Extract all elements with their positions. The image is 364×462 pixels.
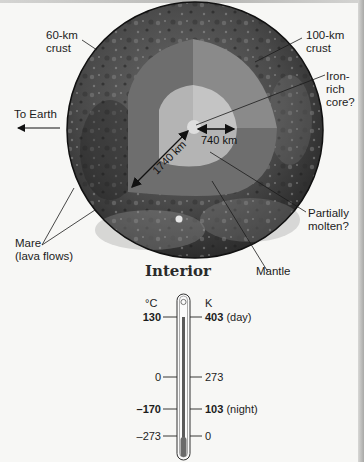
kelvin-403-row: 403 (day) (205, 311, 251, 323)
thermometer-icon (0, 0, 364, 462)
celsius-minus-273: –273 (137, 430, 161, 442)
moon-interior-figure: 1740 km 740 km 60-km crust 100-km crust … (0, 0, 364, 462)
kelvin-273: 273 (205, 371, 223, 383)
celsius-130: 130 (143, 311, 161, 323)
kelvin-0: 0 (205, 430, 211, 442)
kelvin-103-row: 103 (night) (205, 403, 258, 415)
celsius-0: 0 (155, 371, 161, 383)
celsius-minus-170: –170 (137, 403, 161, 415)
celsius-header: °C (145, 297, 157, 309)
kelvin-header: K (205, 297, 212, 309)
